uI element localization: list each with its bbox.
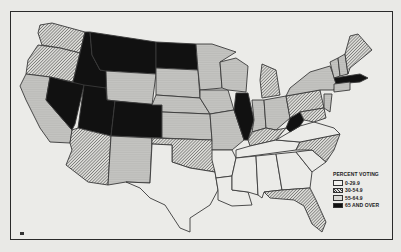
legend-item-55-64: 55-64.9: [333, 194, 379, 202]
state-nd: [156, 42, 198, 70]
state-mt: [90, 32, 156, 74]
state-oh: [264, 96, 290, 130]
legend-label: 30-54.9: [345, 187, 363, 193]
state-wy: [106, 71, 156, 105]
legend-item-65-over: 65 AND OVER: [333, 202, 379, 210]
legend-swatch-hatched: [333, 188, 343, 194]
state-wi: [220, 58, 248, 92]
us-voting-map: [0, 0, 401, 252]
state-sd: [156, 68, 200, 98]
page-marker-icon: ■: [20, 232, 24, 235]
legend-label: 65 AND OVER: [345, 202, 379, 208]
legend-item-0-29: 0-29.9: [333, 179, 379, 187]
map-legend: PERCENT VOTING 0-29.9 30-54.9 55-64.9 65…: [333, 171, 379, 209]
state-ks: [162, 112, 212, 140]
legend-swatch-dotted: [333, 195, 343, 201]
legend-title: PERCENT VOTING: [333, 171, 379, 177]
state-mi: [260, 64, 280, 98]
state-ny: [286, 66, 336, 96]
state-ms: [232, 156, 258, 195]
legend-item-30-54: 30-54.9: [333, 187, 379, 195]
state-fl: [264, 188, 326, 232]
legend-swatch-white: [333, 180, 343, 186]
legend-label: 55-64.9: [345, 195, 363, 201]
state-co: [111, 101, 162, 138]
state-me: [345, 34, 372, 74]
state-nj: [324, 94, 332, 112]
state-az: [66, 128, 111, 185]
legend-label: 0-29.9: [345, 180, 360, 186]
state-nm: [108, 136, 152, 185]
legend-swatch-black: [333, 203, 343, 209]
state-ct: [334, 82, 350, 92]
